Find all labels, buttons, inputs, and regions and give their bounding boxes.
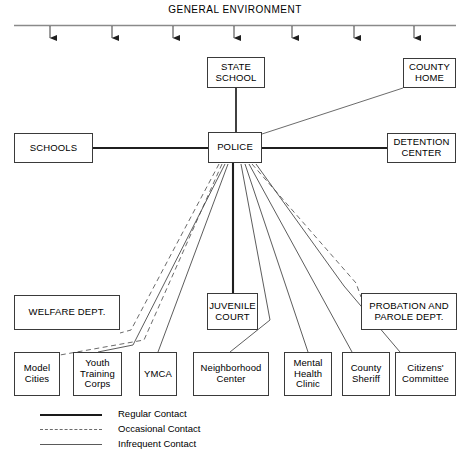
legend: Regular Contact Occasional Contact Infre…	[40, 406, 200, 451]
environment-arrows	[50, 26, 414, 38]
node-juvenile-court-label: JUVENILE COURT	[206, 301, 259, 322]
node-ymca[interactable]: YMCA	[139, 352, 177, 396]
node-model-cities-label: Model Cities	[21, 363, 53, 384]
node-schools-label: SCHOOLS	[27, 143, 81, 154]
edge-police-county-sheriff	[249, 164, 352, 352]
node-welfare-dept[interactable]: WELFARE DEPT.	[14, 295, 120, 330]
legend-line-occasional-icon	[40, 423, 102, 435]
legend-row-regular: Regular Contact	[40, 406, 200, 421]
legend-label-regular: Regular Contact	[118, 408, 187, 419]
legend-line-regular-icon	[40, 408, 102, 420]
node-youth-training-corps[interactable]: Youth Training Corps	[73, 352, 122, 396]
node-juvenile-court[interactable]: JUVENILE COURT	[207, 293, 258, 330]
node-state-school-label: STATE SCHOOL	[212, 62, 259, 83]
edge-county-home-police	[262, 88, 403, 134]
node-welfare-dept-label: WELFARE DEPT.	[26, 307, 109, 318]
node-county-home-label: COUNTY HOME	[406, 62, 453, 83]
node-state-school[interactable]: STATE SCHOOL	[207, 57, 265, 88]
node-detention-center[interactable]: DETENTION CENTER	[387, 133, 456, 163]
node-county-sheriff-label: County Sheriff	[348, 363, 385, 384]
legend-row-occasional: Occasional Contact	[40, 421, 200, 436]
node-county-sheriff[interactable]: County Sheriff	[342, 352, 390, 396]
legend-label-infrequent: Infrequent Contact	[118, 438, 196, 449]
node-schools[interactable]: SCHOOLS	[14, 133, 93, 163]
node-probation-parole-dept-label: PROBATION AND PAROLE DEPT.	[366, 301, 451, 322]
edge-police-probation-parole	[252, 164, 361, 297]
node-detention-center-label: DETENTION CENTER	[390, 137, 452, 158]
node-youth-training-corps-label: Youth Training Corps	[77, 358, 118, 390]
node-police[interactable]: POLICE	[208, 132, 262, 163]
legend-label-occasional: Occasional Contact	[118, 423, 200, 434]
node-mental-health-clinic-label: Mental Health Clinic	[290, 358, 325, 390]
node-ymca-label: YMCA	[141, 369, 175, 380]
general-environment-title: GENERAL ENVIRONMENT	[0, 4, 470, 15]
node-citizens-committee-label: Citizens' Committee	[399, 363, 452, 384]
node-county-home[interactable]: COUNTY HOME	[403, 58, 456, 88]
legend-line-infrequent-icon	[40, 438, 102, 450]
edge-police-welfare-dept	[120, 164, 219, 333]
legend-row-infrequent: Infrequent Contact	[40, 436, 200, 451]
node-neighborhood-center[interactable]: Neighborhood Center	[193, 352, 269, 396]
node-mental-health-clinic[interactable]: Mental Health Clinic	[284, 352, 332, 396]
node-citizens-committee[interactable]: Citizens' Committee	[395, 352, 456, 396]
node-neighborhood-center-label: Neighborhood Center	[198, 363, 265, 384]
node-model-cities[interactable]: Model Cities	[14, 352, 60, 396]
organizational-network-diagram: GENERAL ENVIRONMENT	[0, 0, 470, 461]
node-probation-parole-dept[interactable]: PROBATION AND PAROLE DEPT.	[361, 293, 457, 330]
node-police-label: POLICE	[214, 142, 256, 153]
